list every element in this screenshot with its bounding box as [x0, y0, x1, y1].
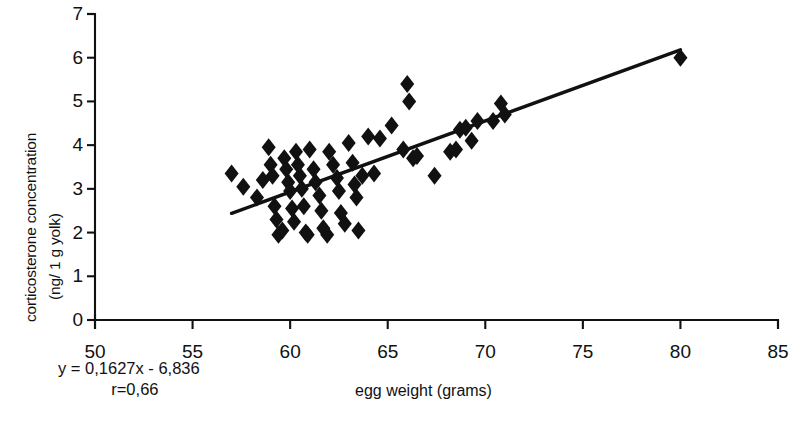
- data-point-marker: [295, 180, 309, 198]
- data-point-marker: [297, 197, 311, 215]
- data-point-marker: [402, 92, 416, 110]
- data-point-marker: [361, 127, 375, 145]
- data-point-marker: [262, 138, 276, 156]
- data-point-marker: [349, 189, 363, 207]
- plot-area: [0, 0, 791, 430]
- data-point-marker: [373, 130, 387, 148]
- data-point-marker: [314, 202, 328, 220]
- data-point-marker: [351, 221, 365, 239]
- data-point-marker: [332, 182, 346, 200]
- data-point-marker: [303, 141, 317, 159]
- data-point-marker: [400, 75, 414, 93]
- data-point-marker: [307, 160, 321, 178]
- data-point-marker: [385, 116, 399, 134]
- scatter-chart-figure: corticosterone concentration (ng/ 1 g yo…: [0, 0, 791, 430]
- data-point-marker: [342, 134, 356, 152]
- data-point-marker: [428, 167, 442, 185]
- data-point-marker: [287, 213, 301, 231]
- data-point-marker: [225, 165, 239, 183]
- data-point-marker: [367, 165, 381, 183]
- data-point-marker: [236, 178, 250, 196]
- data-point-marker: [285, 200, 299, 218]
